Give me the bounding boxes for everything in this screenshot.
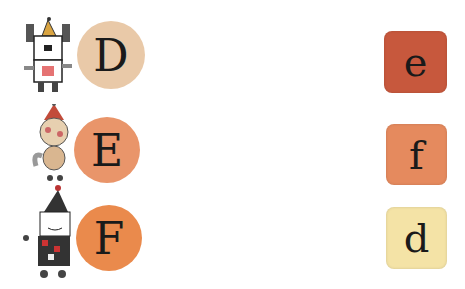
letter-circle-F[interactable]: F — [76, 205, 142, 271]
cat-icon — [30, 104, 80, 194]
letter-E: E — [91, 125, 123, 176]
letter-circle-D[interactable]: D — [77, 21, 145, 89]
letter-tile-f[interactable]: f — [386, 124, 447, 185]
letter-d: d — [404, 215, 430, 261]
letter-F: F — [94, 213, 125, 264]
letter-D: D — [93, 30, 128, 81]
letter-e: e — [404, 39, 428, 85]
letter-tile-e[interactable]: e — [384, 31, 447, 93]
letter-tile-d[interactable]: d — [386, 207, 447, 269]
dog-robot-icon — [22, 14, 82, 94]
letter-circle-E[interactable]: E — [74, 117, 140, 183]
clown-icon — [20, 182, 80, 282]
letter-f: f — [409, 132, 424, 178]
